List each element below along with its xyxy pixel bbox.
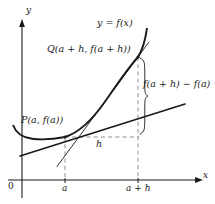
y-axis-label: y <box>26 6 31 15</box>
point-q-marker <box>137 56 140 59</box>
y-axis <box>19 19 25 198</box>
rise-label: f(a + h) − f(a) <box>143 79 210 89</box>
tick-label-a: a <box>62 184 67 193</box>
point-p-label: P(a, f(a)) <box>21 115 63 125</box>
origin-label: 0 <box>8 182 14 191</box>
secant-tangent-figure: y x 0 a a + h y = f(x) Q(a + h, f(a + h)… <box>0 0 215 204</box>
guide-lines <box>65 57 139 180</box>
figure-canvas <box>0 0 215 204</box>
run-label: h <box>96 139 102 149</box>
rise-brace <box>140 58 148 134</box>
x-axis <box>8 177 203 183</box>
tick-label-a-plus-h: a + h <box>126 184 150 193</box>
point-q-label: Q(a + h, f(a + h)) <box>47 44 131 54</box>
curve-equation-label: y = f(x) <box>97 18 133 28</box>
point-p-marker <box>64 136 67 139</box>
tangent-line <box>20 104 185 156</box>
x-axis-label: x <box>203 171 208 180</box>
